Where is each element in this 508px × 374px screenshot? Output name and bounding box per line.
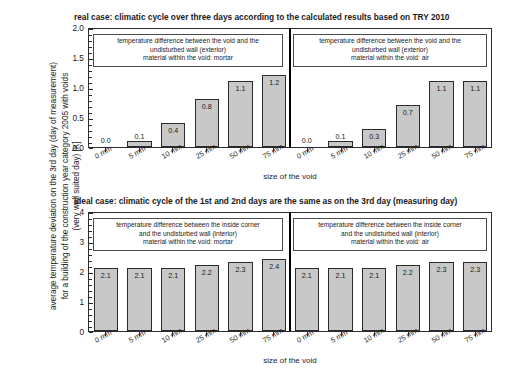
bar-value-label: 1.1 [235, 84, 245, 93]
y-tick-minor [89, 71, 92, 72]
bar-value-label: 2.2 [202, 268, 212, 277]
y-tick-minor [89, 107, 92, 108]
bar-group-top-left: 0.00.10.40.81.11.2 [89, 29, 290, 147]
bar: 1.2 [262, 75, 286, 147]
bar-value-label: 0.8 [202, 102, 212, 111]
bar-value-label: 2.2 [403, 268, 413, 277]
bar: 2.1 [328, 268, 352, 331]
bar-value-label: 2.3 [470, 265, 480, 274]
chart-figure: average temperature deviation on the 3rd… [0, 0, 508, 374]
bar: 0.8 [195, 99, 219, 147]
bar-group-bottom-right: 2.12.12.12.22.32.3 [290, 213, 491, 331]
y-tick-major [89, 303, 93, 304]
y-tick-label: 0.5 [72, 113, 84, 123]
bar-value-label: 1.2 [269, 78, 279, 87]
bar: 2.1 [94, 268, 118, 331]
bar: 2.1 [295, 268, 319, 331]
bar: 0.7 [396, 105, 420, 147]
bar: 2.1 [161, 268, 185, 331]
bar: 2.1 [127, 268, 151, 331]
y-tick-minor [89, 113, 92, 114]
y-tick-minor [89, 125, 92, 126]
bar-value-label: 2.4 [269, 262, 279, 271]
bar: 2.3 [228, 262, 252, 331]
y-tick-minor [89, 309, 92, 310]
y-tick-minor [89, 219, 92, 220]
y-tick-minor [89, 143, 92, 144]
y-axis-title-line-1: average temperature deviation on the 3rd… [48, 8, 60, 364]
y-tick-minor [89, 65, 92, 66]
y-tick-major [89, 273, 93, 274]
y-tick-major [89, 243, 93, 244]
y-tick-label: 1.0 [72, 83, 84, 93]
y-tick-minor [89, 35, 92, 36]
plot-area-bottom: temperature difference between the insid… [88, 212, 492, 332]
y-tick-major [89, 59, 93, 60]
x-axis-title-bottom: size of the void [88, 356, 492, 365]
y-tick-major [89, 213, 93, 214]
bar-value-label: 2.1 [302, 271, 312, 280]
bar-group-bottom-left: 2.12.12.12.22.32.4 [89, 213, 290, 331]
bar-value-label: 0.0 [101, 136, 111, 145]
y-tick-minor [89, 47, 92, 48]
bar-value-label: 0.1 [134, 132, 144, 141]
bar-group-top-right: 0.00.10.30.71.11.1 [290, 29, 491, 147]
y-tick-minor [89, 231, 92, 232]
y-tick-minor [89, 261, 92, 262]
bar: 2.4 [262, 259, 286, 331]
y-tick-minor [89, 77, 92, 78]
x-axis-title-top: size of the void [88, 172, 492, 181]
bar-value-label: 1.1 [470, 84, 480, 93]
y-tick-label: 2.0 [72, 23, 84, 33]
y-tick-minor [89, 267, 92, 268]
y-tick-major [89, 89, 93, 90]
bar: 1.1 [228, 81, 252, 147]
bar: 2.3 [463, 262, 487, 331]
y-tick-minor [89, 41, 92, 42]
y-tick-label: 1.5 [72, 53, 84, 63]
bar: 2.3 [429, 262, 453, 331]
y-tick-label: 3 [79, 237, 84, 247]
y-tick-minor [89, 101, 92, 102]
bar: 2.1 [362, 268, 386, 331]
y-tick-minor [89, 255, 92, 256]
y-tick-minor [89, 285, 92, 286]
bar-value-label: 2.1 [101, 271, 111, 280]
panel-title-bottom: ideal case: climatic cycle of the 1st an… [74, 196, 504, 206]
y-tick-minor [89, 83, 92, 84]
y-tick-label: 0.0 [72, 143, 84, 153]
bar-value-label: 0.7 [403, 108, 413, 117]
y-axis-bottom: 01234 [62, 212, 88, 332]
y-tick-major [89, 119, 93, 120]
y-tick-minor [89, 237, 92, 238]
y-tick-label: 0 [79, 327, 84, 337]
y-tick-minor [89, 291, 92, 292]
y-axis-title: average temperature deviation on the 3rd… [0, 0, 56, 374]
y-tick-minor [89, 321, 92, 322]
bar-value-label: 2.1 [168, 271, 178, 280]
y-tick-minor [89, 327, 92, 328]
bar-value-label: 1.1 [436, 84, 446, 93]
bar: 2.2 [195, 265, 219, 331]
bar-value-label: 2.3 [436, 265, 446, 274]
y-tick-label: 1 [79, 297, 84, 307]
bar-value-label: 0.3 [369, 132, 379, 141]
bar-value-label: 2.1 [134, 271, 144, 280]
bar: 2.2 [396, 265, 420, 331]
panel-real-case: real case: climatic cycle over three day… [62, 12, 506, 190]
y-tick-label: 2 [79, 267, 84, 277]
y-tick-minor [89, 131, 92, 132]
bar-value-label: 0.1 [335, 132, 345, 141]
y-tick-minor [89, 297, 92, 298]
y-tick-minor [89, 315, 92, 316]
y-tick-label: 4 [79, 207, 84, 217]
bar: 1.1 [463, 81, 487, 147]
bar-value-label: 2.3 [235, 265, 245, 274]
y-tick-minor [89, 137, 92, 138]
y-tick-minor [89, 249, 92, 250]
y-tick-minor [89, 279, 92, 280]
bar-value-label: 0.4 [168, 126, 178, 135]
bar: 1.1 [429, 81, 453, 147]
panel-ideal-case: ideal case: climatic cycle of the 1st an… [62, 196, 506, 374]
plot-area-top: temperature difference between the void … [88, 28, 492, 148]
